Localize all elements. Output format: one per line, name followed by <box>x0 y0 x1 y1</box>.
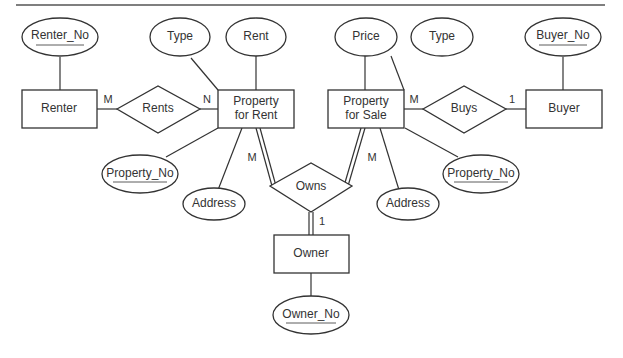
svg-text:Renter: Renter <box>41 101 77 115</box>
svg-text:Property_No: Property_No <box>106 166 174 180</box>
svg-text:Owner: Owner <box>293 246 328 260</box>
svg-text:for Sale: for Sale <box>345 108 387 122</box>
attribute-owner-no: Owner_No <box>273 296 349 334</box>
svg-text:Owner_No: Owner_No <box>282 307 340 321</box>
svg-text:Owns: Owns <box>296 179 327 193</box>
attribute-rent-address: Address <box>183 188 245 220</box>
entity-renter: Renter <box>22 90 97 128</box>
svg-text:Type: Type <box>167 29 193 43</box>
svg-text:Buyer: Buyer <box>548 101 579 115</box>
cardinality-rents-property: N <box>203 93 211 105</box>
svg-text:Property: Property <box>233 94 278 108</box>
attribute-sale-address: Address <box>377 188 439 220</box>
svg-text:Renter_No: Renter_No <box>31 28 89 42</box>
cardinality-sale-buys: M <box>409 93 418 105</box>
cardinality-buys-buyer: 1 <box>509 93 515 105</box>
attribute-rent-property-no: Property_No <box>102 155 178 193</box>
svg-text:Address: Address <box>386 196 430 210</box>
svg-text:Rent: Rent <box>243 29 269 43</box>
cardinality-sale-owns: M <box>367 151 376 163</box>
entity-buyer: Buyer <box>526 90 602 128</box>
entity-owner: Owner <box>274 235 349 273</box>
attribute-sale-property-no: Property_No <box>443 155 519 193</box>
svg-text:Property: Property <box>343 94 388 108</box>
relationship-rents: Rents <box>117 86 200 133</box>
cardinality-rent-owns: M <box>247 151 256 163</box>
cardinality-owns-owner: 1 <box>319 215 325 227</box>
svg-text:Buys: Buys <box>451 101 478 115</box>
attribute-rent: Rent <box>226 18 286 56</box>
svg-text:Type: Type <box>429 29 455 43</box>
relationship-owns: Owns <box>270 163 352 212</box>
attribute-renter-no: Renter_No <box>22 18 98 56</box>
svg-text:Rents: Rents <box>142 101 173 115</box>
relationship-buys: Buys <box>423 86 506 133</box>
attribute-buyer-no: Buyer_No <box>525 18 601 56</box>
entity-property-for-rent: Property for Rent <box>218 90 294 128</box>
er-diagram: Renter_No Renter M Rents N Type Rent Pro… <box>0 0 623 358</box>
attribute-price: Price <box>335 18 397 56</box>
attribute-rent-type: Type <box>150 18 210 56</box>
attribute-sale-type: Type <box>411 18 473 56</box>
cardinality-renter-rents: M <box>103 93 112 105</box>
svg-text:Property_No: Property_No <box>447 166 515 180</box>
svg-text:Price: Price <box>352 29 380 43</box>
svg-text:Address: Address <box>192 196 236 210</box>
entity-property-for-sale: Property for Sale <box>328 90 404 128</box>
svg-text:for Rent: for Rent <box>235 108 278 122</box>
svg-text:Buyer_No: Buyer_No <box>536 28 590 42</box>
